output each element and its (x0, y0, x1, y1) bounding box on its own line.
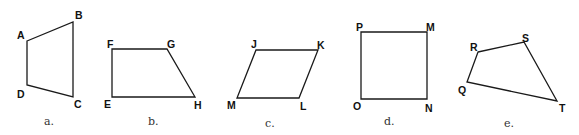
vertex-label: M (227, 99, 236, 111)
shape-caption: d. (384, 115, 395, 128)
vertex-label: P (356, 21, 363, 33)
shape-caption: e. (504, 117, 514, 130)
vertex-label: Q (458, 84, 466, 96)
shape-c: JKLMc. (227, 38, 325, 130)
vertex-label: E (104, 98, 111, 110)
shape-caption: b. (148, 115, 159, 128)
vertex-label: O (353, 100, 361, 112)
vertex-label: G (167, 38, 175, 50)
shape-d: PMNOd. (353, 21, 435, 128)
vertex-label: M (426, 21, 435, 33)
shape-caption: c. (265, 117, 275, 130)
vertex-label: B (75, 9, 83, 21)
vertex-label: H (194, 99, 202, 111)
vertex-label: L (300, 100, 307, 112)
vertex-label: D (17, 88, 25, 100)
shape-c-outline (237, 50, 318, 98)
vertex-label: T (559, 102, 566, 114)
vertex-label: S (522, 32, 529, 44)
shape-e: RSTQe. (458, 32, 566, 130)
shape-caption: a. (44, 115, 54, 128)
shape-b-outline (112, 49, 195, 97)
vertex-label: N (425, 102, 433, 114)
vertex-label: J (251, 38, 257, 50)
shape-b: FGHEb. (104, 38, 202, 128)
shape-e-outline (467, 42, 557, 101)
quadrilaterals-figure: ABCDa.FGHEb.JKLMc.PMNOd.RSTQe. (0, 0, 579, 135)
vertex-label: C (74, 98, 82, 110)
shape-a: ABCDa. (17, 9, 83, 128)
shape-a-outline (27, 22, 73, 97)
vertex-label: K (317, 39, 325, 51)
vertex-label: R (470, 41, 478, 53)
shape-d-outline (361, 32, 427, 99)
vertex-label: F (107, 38, 114, 50)
vertex-label: A (17, 29, 25, 41)
